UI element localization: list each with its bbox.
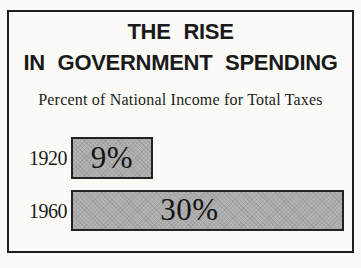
chart-canvas: THE RISE IN GOVERNMENT SPENDING Percent …	[0, 0, 361, 268]
bar-value-label-1960: 30%	[160, 194, 218, 227]
year-label-1920: 1920	[17, 147, 67, 170]
bar-row-1920: 1920 9%	[9, 137, 352, 179]
year-label-1960: 1960	[17, 199, 67, 222]
bar-1960: 30%	[71, 190, 344, 231]
chart-title-line2: IN GOVERNMENT SPENDING	[9, 50, 352, 76]
bar-value-label-1920: 9%	[91, 142, 133, 175]
bar-1920: 9%	[71, 137, 153, 179]
chart-title-line1: THE RISE	[9, 19, 352, 45]
chart-subtitle: Percent of National Income for Total Tax…	[9, 91, 352, 109]
chart-frame: THE RISE IN GOVERNMENT SPENDING Percent …	[7, 10, 354, 253]
bar-row-1960: 1960 30%	[9, 190, 352, 231]
